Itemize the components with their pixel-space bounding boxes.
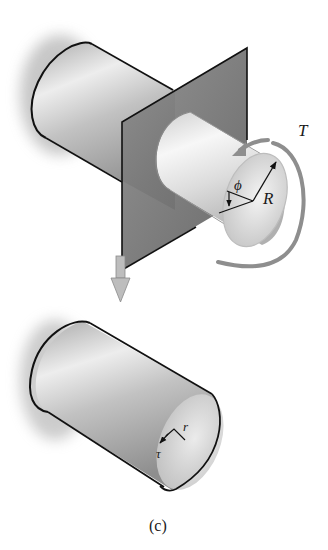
angle-label-phi: ϕ (234, 177, 242, 193)
bottom-figure: r τ (20, 320, 237, 500)
down-arrow-shaft (116, 256, 125, 278)
top-figure: T R ϕ (20, 35, 309, 270)
radius-label-R: R (262, 189, 274, 208)
torsion-diagram: T R ϕ r τ (c) (0, 0, 328, 550)
figure-caption: (c) (149, 517, 167, 535)
down-arrow-head-icon (111, 278, 130, 302)
torque-label: T (298, 121, 309, 140)
